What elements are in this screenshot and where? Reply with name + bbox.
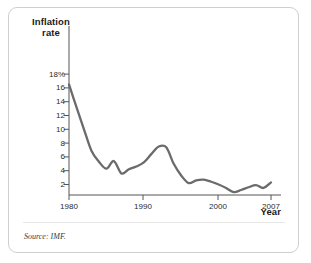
axis-lines: [69, 26, 281, 195]
x-tick-label-1980: 1980: [49, 202, 89, 211]
y-tick-label-2: 2: [31, 180, 65, 189]
x-tick-label-1990: 1990: [123, 202, 163, 211]
y-tick-label-8: 8: [31, 139, 65, 148]
y-tick-label-14: 14: [31, 97, 65, 106]
y-tick-label-12: 12: [31, 111, 65, 120]
figure-frame: Inflation rate 18% 16 14 12 10 8 6 4 2 1…: [8, 7, 299, 253]
source-note: Source: IMF.: [24, 232, 66, 241]
x-axis-ticks: [69, 195, 271, 200]
y-tick-label-16: 16: [31, 83, 65, 92]
y-axis-title-line-2: rate: [19, 27, 83, 38]
y-tick-label-10: 10: [31, 125, 65, 134]
chart-area: Inflation rate 18% 16 14 12 10 8 6 4 2 1…: [9, 8, 300, 254]
inflation-rate-line: [69, 84, 271, 192]
y-tick-label-4: 4: [31, 166, 65, 175]
y-axis-title-line-1: Inflation: [19, 16, 83, 27]
source-divider: [23, 222, 285, 223]
y-tick-label-6: 6: [31, 152, 65, 161]
x-axis-title: Year: [221, 206, 281, 217]
y-tick-label-18: 18%: [31, 70, 65, 79]
y-axis-title: Inflation rate: [19, 16, 83, 38]
